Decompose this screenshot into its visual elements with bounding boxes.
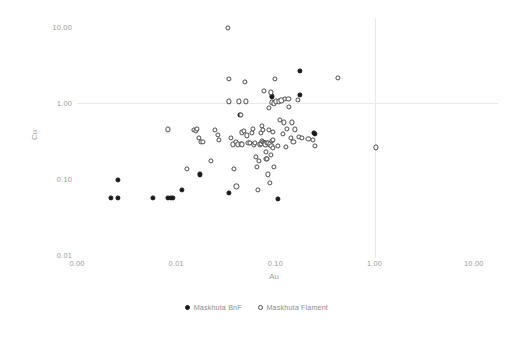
- data-point: [290, 120, 295, 125]
- data-point: [271, 138, 276, 143]
- data-point: [256, 158, 261, 163]
- data-point: [232, 167, 237, 172]
- data-point: [180, 187, 185, 192]
- data-point: [150, 195, 155, 200]
- data-point: [260, 128, 265, 133]
- data-point: [243, 79, 248, 84]
- data-point: [295, 97, 300, 102]
- data-point: [226, 25, 231, 30]
- data-point: [116, 195, 121, 200]
- data-point: [255, 187, 260, 192]
- data-point: [281, 120, 286, 125]
- legend-label-flament: Maskhuta Flament: [266, 303, 328, 312]
- data-point: [270, 129, 275, 134]
- legend-entry-flament[interactable]: Maskhuta Flament: [258, 303, 328, 312]
- data-point: [310, 138, 315, 143]
- data-point: [249, 131, 254, 136]
- y-axis-title: Cu: [30, 130, 39, 140]
- filled-circle-icon: [185, 305, 190, 310]
- data-point: [284, 126, 289, 131]
- data-point: [299, 136, 304, 141]
- data-point: [268, 181, 273, 186]
- data-point: [170, 195, 175, 200]
- data-point: [269, 153, 274, 158]
- data-point: [313, 143, 318, 148]
- data-point: [265, 172, 270, 177]
- plot-area: 0.010.101.0010.000.000.010.101.0010.00: [0, 0, 513, 339]
- scatter-chart: 0.010.101.0010.000.000.010.101.0010.00 C…: [0, 0, 513, 339]
- data-point: [335, 75, 340, 80]
- data-point: [227, 77, 232, 82]
- data-point: [215, 132, 220, 137]
- data-point: [275, 143, 280, 148]
- data-point: [374, 145, 379, 150]
- legend-entry-bnf[interactable]: Maskhuta BnF: [185, 303, 242, 312]
- data-point: [216, 138, 221, 143]
- gridline-vertical-au-1: [375, 18, 376, 258]
- y-tick-0-10: 0.10: [57, 175, 72, 184]
- data-point: [234, 184, 239, 189]
- x-tick-0-10: 0.10: [268, 259, 283, 268]
- data-point: [198, 172, 203, 177]
- x-tick-0-01: 0.01: [169, 259, 184, 268]
- data-point: [286, 97, 291, 102]
- data-point: [271, 164, 276, 169]
- data-point: [313, 131, 318, 136]
- x-axis-title: Au: [269, 272, 279, 281]
- data-point: [275, 196, 280, 201]
- data-point: [184, 167, 189, 172]
- data-point: [208, 158, 213, 163]
- data-point: [297, 68, 302, 73]
- chart-legend: Maskhuta BnF Maskhuta Flament: [0, 303, 513, 312]
- data-point: [239, 142, 244, 147]
- data-point: [226, 191, 231, 196]
- data-point: [165, 127, 170, 132]
- data-point: [254, 164, 259, 169]
- y-tick-1-00: 1.00: [57, 99, 72, 108]
- data-point: [291, 140, 296, 145]
- data-point: [116, 177, 121, 182]
- data-point: [293, 127, 298, 132]
- data-point: [200, 140, 205, 145]
- legend-label-bnf: Maskhuta BnF: [194, 303, 242, 312]
- data-point: [287, 105, 292, 110]
- data-point: [194, 126, 199, 131]
- data-point: [272, 77, 277, 82]
- data-point: [280, 131, 285, 136]
- data-point: [266, 105, 271, 110]
- data-point: [283, 144, 288, 149]
- open-circle-icon: [258, 305, 263, 310]
- data-point: [250, 126, 255, 131]
- x-tick-1-00: 1.00: [367, 259, 382, 268]
- x-tick-0-00: 0.00: [69, 259, 84, 268]
- data-point: [261, 88, 266, 93]
- data-point: [108, 195, 113, 200]
- data-point: [239, 112, 244, 117]
- y-tick-10-00: 10.00: [53, 23, 73, 32]
- x-tick-10-00: 10.00: [464, 259, 484, 268]
